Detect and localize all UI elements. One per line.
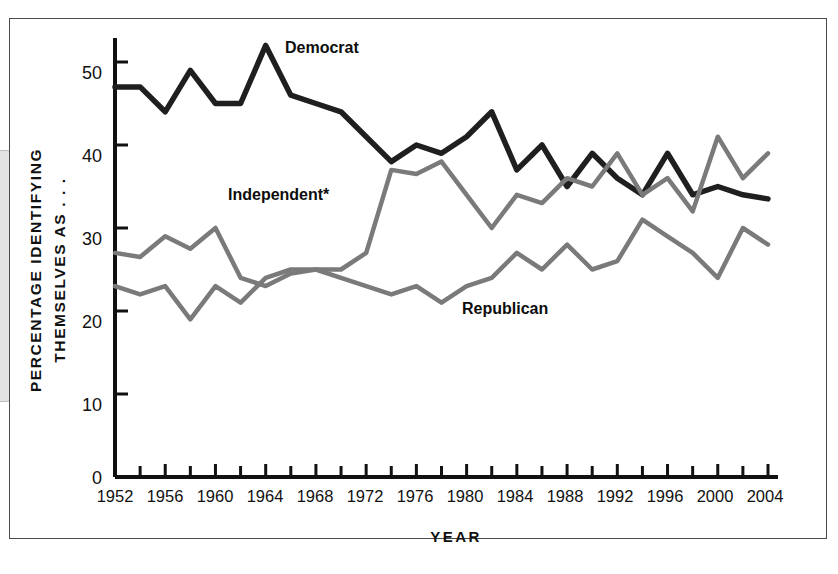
line-chart: PERCENTAGE IDENTIFYING THEMSELVES AS . .… [0,0,838,574]
series-line-democrat [115,45,768,199]
plot-area [0,0,838,574]
series-paths [115,45,768,319]
series-line-republican [115,220,768,320]
